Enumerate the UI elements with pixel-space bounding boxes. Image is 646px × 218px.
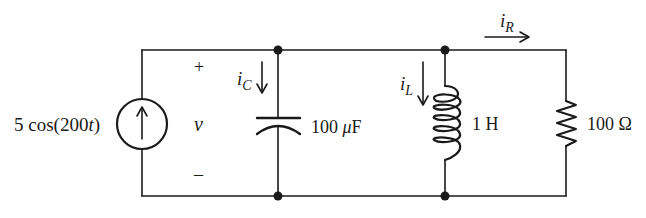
circuit-diagram: 5 cos(200t) + v – iC 100 μF iL 1 H iR 10… — [0, 0, 646, 218]
capacitor-current-label: iC — [237, 68, 252, 93]
resistor-current-label: iR — [500, 10, 514, 35]
current-arrow-il — [418, 62, 428, 105]
inductor-value: 1 H — [472, 114, 499, 134]
node-dot — [274, 46, 283, 55]
resistor-symbol — [557, 101, 576, 146]
voltage-label: v — [194, 113, 203, 135]
inductor-symbol — [434, 86, 461, 160]
node-dot — [441, 46, 450, 55]
source-label: 5 cos(200t) — [14, 114, 100, 136]
node-dot — [441, 192, 450, 201]
resistor-value: 100 Ω — [587, 114, 632, 134]
current-arrow-ic — [257, 62, 267, 93]
voltage-minus-sign: – — [193, 164, 204, 184]
capacitor-value: 100 μF — [311, 117, 362, 137]
voltage-plus-sign: + — [194, 57, 204, 77]
node-dot — [274, 192, 283, 201]
current-source-symbol — [117, 99, 167, 149]
inductor-current-label: iL — [400, 73, 413, 98]
